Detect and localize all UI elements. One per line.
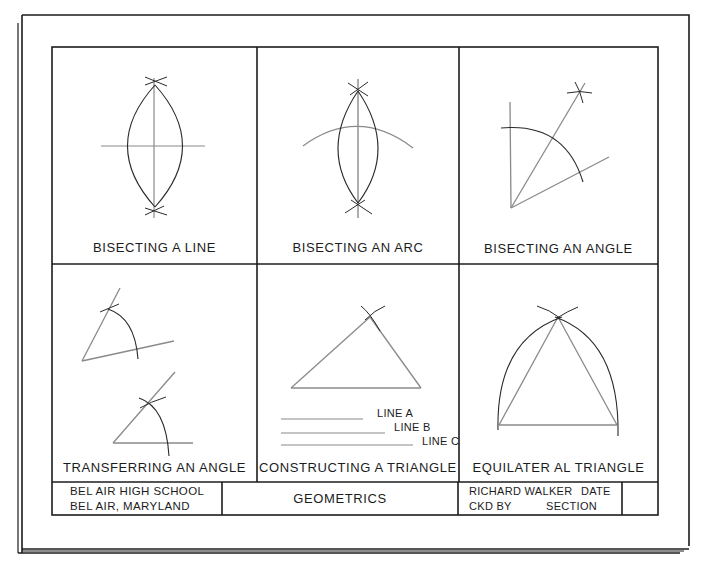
line-c-label: LINE C [422,435,459,447]
transferring-angle-figure [82,288,193,456]
bisecting-angle-figure [501,82,609,208]
panel-label-constructing-triangle: CONSTRUCTING A TRIANGLE [257,460,459,475]
panel-label-bisecting-angle: BISECTING AN ANGLE [459,241,658,256]
line-b-label: LINE B [394,421,431,433]
checked-by-label: CKD BY [469,500,512,512]
drawing-title: GEOMETRICS [222,491,458,506]
date-label: DATE [581,485,611,497]
equilateral-triangle-figure [498,306,618,436]
bisecting-line-figure [101,77,205,218]
sheet-linework [0,0,708,566]
school-name: BEL AIR HIGH SCHOOL [70,485,204,497]
panel-label-equilateral-triangle: EQUILATER AL TRIANGLE [459,460,658,475]
panel-label-bisecting-arc: BISECTING AN ARC [257,240,459,255]
panel-label-transferring-angle: TRANSFERRING AN ANGLE [52,460,257,475]
section-label: SECTION [546,500,597,512]
bisecting-arc-figure [303,79,413,218]
panel-label-bisecting-line: BISECTING A LINE [52,240,257,255]
drawn-by: RICHARD WALKER [469,485,572,497]
drawing-sheet: BISECTING A LINE BISECTING AN ARC BISECT… [0,0,708,566]
school-location: BEL AIR, MARYLAND [70,500,190,512]
line-a-label: LINE A [377,407,413,419]
